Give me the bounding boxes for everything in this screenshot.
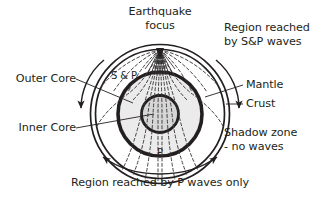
inner-core-layer <box>142 96 179 133</box>
shadow-zone-label: Shadow zone - no waves <box>224 126 297 153</box>
earthquake-shadow-zone-diagram: Earthquake focus Region reached by S&P w… <box>0 0 321 198</box>
outer-core-label: Outer Core <box>0 72 76 86</box>
region-reached-sp-line2: by S&P waves <box>224 35 310 49</box>
crust-label: Crust <box>246 97 275 111</box>
earthquake-focus-label-line1: Earthquake <box>98 5 222 19</box>
inner-core-label: Inner Core <box>0 121 76 135</box>
region-reached-sp-label: Region reached by S&P waves <box>224 21 310 48</box>
p-waves-caption: Region reached by P waves only <box>28 176 292 190</box>
shadow-zone-line2: - no waves <box>224 140 297 154</box>
sp-wave-zone-label: S & P <box>111 70 137 82</box>
p-wave-zone-label: P <box>157 147 163 159</box>
mantle-label: Mantle <box>246 78 283 92</box>
region-reached-sp-line1: Region reached <box>224 21 310 35</box>
shadow-zone-line1: Shadow zone <box>224 126 297 140</box>
earthquake-focus-label-line2: focus <box>98 19 222 33</box>
earthquake-focus-label: Earthquake focus <box>98 5 222 32</box>
